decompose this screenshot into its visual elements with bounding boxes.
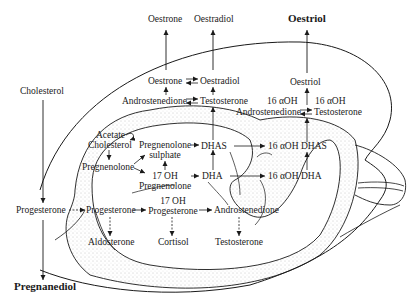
label-16oh-androstenedione: Androstenedione [236,107,301,117]
right-appendage [355,145,406,205]
label-oestrone-excreted: Oestrone [148,14,182,24]
label-cortisol: Cortisol [158,237,189,247]
label-androstenedione-fetal: Androstenedione [214,205,279,215]
label-16oh-testosterone: Testosterone [314,107,362,117]
label-pregnenolone-sulphate-line1: Pregnenolone [139,140,191,150]
label-cholesterol-maternal: Cholesterol [20,86,64,96]
fetoplacental-steroid-diagram [0,0,420,305]
label-oestradiol: Oestradiol [200,76,240,86]
label-acetate: Acetate [96,130,125,140]
label-oestrone: Oestrone [148,76,182,86]
label-oestriol: Oestriol [290,77,321,87]
label-16oh-left: 16 αOH [267,96,298,106]
label-dha: DHA [202,171,223,181]
label-pregnenolone: Pregnenolone [82,162,134,172]
label-testosterone-placenta: Testosterone [200,96,248,106]
label-progesterone-maternal: Progesterone [16,205,66,215]
label-17oh-progesterone-line2: Progesterone [148,206,198,216]
label-cholesterol-fetal: Cholesterol [88,140,132,150]
label-pregnenolone-sulphate-line2: sulphate [149,150,181,160]
label-progesterone-fetal: Progesterone [86,205,136,215]
label-16oh-dhas: 16 αOH DHAS [268,141,327,151]
label-androstenedione-placenta: Androstenedione [122,96,187,106]
label-testosterone-fetal: Testosterone [215,237,263,247]
label-oestradiol-excreted: Oestradiol [194,14,234,24]
label-17oh-progesterone: 17 OHProgesterone [146,196,200,216]
label-17oh-pregnenolone-line1: 17 OH [152,171,178,181]
label-17oh-pregnenolone: 17 OHPregnenolone [138,171,192,191]
label-dhas: DHAS [201,141,227,151]
label-pregnenolone-sulphate: Pregnenolonesulphate [138,140,192,160]
label-17oh-pregnenolone-line2: Pregnenolone [139,181,191,191]
label-pregnanediol: Pregnanediol [14,281,76,291]
label-aldosterone: Aldosterone [88,237,134,247]
label-17oh-progesterone-line1: 17 OH [160,196,186,206]
label-16oh-right: 16 αOH [315,96,346,106]
label-16oh-dha: 16 αOH DHA [268,171,322,181]
label-oestriol-excreted: Oestriol [288,13,326,23]
